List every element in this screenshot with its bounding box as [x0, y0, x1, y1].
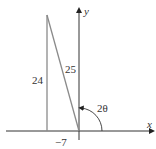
horizontal-side-label: −7 — [55, 136, 67, 148]
x-axis-label: x — [146, 118, 152, 130]
y-axis-label: y — [83, 5, 89, 17]
vertical-side-label: 24 — [32, 74, 44, 86]
angle-label: 2θ — [97, 102, 108, 114]
diagram-canvas: x y 24 25 −7 2θ — [0, 0, 156, 149]
coordinate-diagram: x y 24 25 −7 2θ — [0, 0, 156, 149]
hypotenuse-label: 25 — [65, 63, 77, 75]
